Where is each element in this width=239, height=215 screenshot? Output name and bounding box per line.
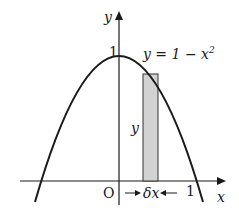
- strip-width-label: δx: [143, 185, 159, 201]
- parabola-diagram: y 1 y = 1 − x2 y O δx 1 x: [0, 0, 239, 215]
- arrow-left-icon: [160, 190, 166, 196]
- x-axis-label: x: [217, 189, 225, 205]
- arrow-right-icon: [135, 190, 141, 196]
- y-intercept-label: 1: [109, 44, 118, 60]
- y-axis-arrow-icon: [115, 11, 123, 20]
- x-axis-arrow-icon: [217, 177, 226, 185]
- area-strip: [143, 74, 158, 181]
- x-intercept-label: 1: [186, 183, 195, 199]
- function-label: y = 1 − x2: [142, 45, 215, 62]
- origin-label: O: [103, 185, 114, 201]
- function-exponent: 2: [208, 45, 215, 55]
- function-label-text: y = 1 − x: [142, 46, 209, 62]
- strip-height-label: y: [130, 120, 140, 136]
- y-axis-label: y: [103, 9, 113, 25]
